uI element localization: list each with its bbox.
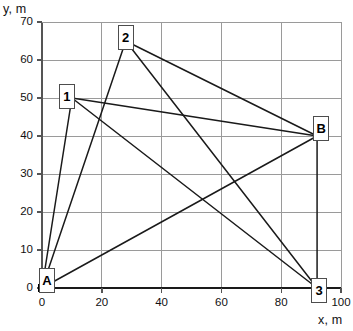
y-tick-label: 60: [7, 53, 33, 65]
y-tick-label: 40: [7, 129, 33, 141]
x-tick-label: 0: [27, 296, 57, 308]
x-tick-label: 100: [326, 296, 353, 308]
edge-lines: [42, 41, 317, 288]
x-tick-label: 80: [266, 296, 296, 308]
y-tick-label: 50: [7, 91, 33, 103]
x-tick-label: 40: [147, 296, 177, 308]
node-label-A: A: [39, 268, 55, 293]
y-tick-label: 20: [7, 205, 33, 217]
edge-1-3: [72, 98, 317, 288]
y-tick-label: 30: [7, 167, 33, 179]
node-label-B: B: [313, 116, 329, 141]
y-axis-title: y, m: [3, 2, 26, 16]
y-tick-label: 10: [7, 243, 33, 255]
x-tick-label: 20: [87, 296, 117, 308]
x-axis-title: x, m: [318, 313, 342, 327]
node-label-2: 2: [118, 25, 134, 50]
edge-A-2: [42, 41, 126, 288]
y-tick-label: 0: [7, 281, 33, 293]
node-label-3: 3: [311, 278, 327, 303]
x-tick-label: 60: [206, 296, 236, 308]
axis-ticks: [37, 22, 341, 293]
node-label-1: 1: [59, 84, 75, 109]
y-tick-label: 70: [7, 15, 33, 27]
network-graph-figure: y, m x, m 010203040506070 020406080100 A…: [0, 0, 353, 331]
edge-A-1: [42, 98, 72, 288]
